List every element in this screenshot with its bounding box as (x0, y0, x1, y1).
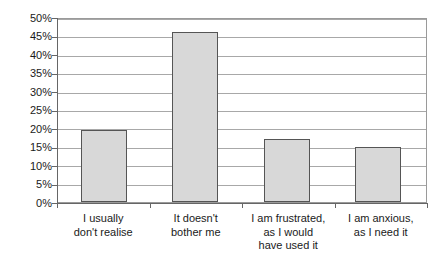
y-axis-label: 30% (8, 87, 52, 98)
y-axis-label: 20% (8, 124, 52, 135)
y-axis-label: 25% (8, 105, 52, 116)
y-axis-label: 40% (8, 50, 52, 61)
y-axis-tick (52, 111, 57, 112)
x-axis-tick (427, 203, 428, 208)
x-axis-tick (150, 203, 151, 208)
y-axis-label: 5% (8, 179, 52, 190)
bar-category-2 (172, 32, 218, 202)
y-axis-tick (52, 55, 57, 56)
category-label-line: bother me (150, 226, 243, 240)
category-label-line: I am anxious, (335, 212, 428, 226)
x-axis-tick (57, 203, 58, 208)
x-axis-category-label-3: I am frustrated, as I would have used it (242, 212, 335, 253)
y-axis-tick (52, 185, 57, 186)
y-axis-label: 15% (8, 142, 52, 153)
y-axis-tick (52, 129, 57, 130)
x-axis-tick (242, 203, 243, 208)
bar-chart: 50% 45% 40% 35% 30% 25% 20% 15% 10% 5% 0… (0, 0, 446, 264)
gridline (58, 74, 426, 75)
y-axis-label: 35% (8, 68, 52, 79)
plot-area (57, 18, 427, 203)
bar-category-3 (264, 139, 310, 202)
y-axis-tick (52, 92, 57, 93)
gridline (58, 37, 426, 38)
gridline (58, 19, 426, 20)
y-axis-labels: 50% 45% 40% 35% 30% 25% 20% 15% 10% 5% 0… (0, 0, 52, 264)
y-axis-tick (52, 37, 57, 38)
y-axis-label: 50% (8, 13, 52, 24)
y-axis-line (57, 18, 58, 204)
y-axis-tick (52, 18, 57, 19)
bar-category-1 (81, 130, 127, 202)
category-label-line: don't realise (57, 226, 150, 240)
gridline (58, 111, 426, 112)
gridline (58, 93, 426, 94)
category-label-line: I usually (57, 212, 150, 226)
x-axis-category-label-1: I usually don't realise (57, 212, 150, 239)
y-axis-label: 10% (8, 161, 52, 172)
category-label-line: I am frustrated, (242, 212, 335, 226)
y-axis-tick (52, 166, 57, 167)
y-axis-label: 45% (8, 31, 52, 42)
category-label-line: It doesn't (150, 212, 243, 226)
y-axis-label: 0% (8, 198, 52, 209)
category-label-line: as I would (242, 226, 335, 240)
category-label-line: have used it (242, 239, 335, 253)
category-label-line: as I need it (335, 226, 428, 240)
y-axis-tick (52, 74, 57, 75)
x-axis-tick (335, 203, 336, 208)
x-axis-category-label-2: It doesn't bother me (150, 212, 243, 239)
bar-category-4 (355, 147, 401, 202)
gridline (58, 56, 426, 57)
x-axis-category-label-4: I am anxious, as I need it (335, 212, 428, 239)
y-axis-tick (52, 148, 57, 149)
